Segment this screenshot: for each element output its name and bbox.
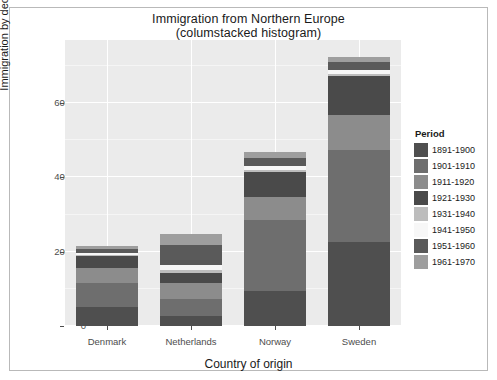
bar-segment[interactable] [328,62,390,70]
legend-swatch [414,207,428,221]
legend-label: 1921-1930 [432,193,475,203]
x-tick-mark [359,326,360,330]
bar-segment[interactable] [160,265,222,270]
plot-area [65,40,401,326]
x-tick-label-norway: Norway [230,336,320,347]
bar-netherlands[interactable] [160,234,222,326]
legend-item[interactable]: 1901-1910 [414,158,490,174]
legend-label: 1931-1940 [432,209,475,219]
bar-segment[interactable] [76,249,138,253]
bar-segment[interactable] [76,253,138,255]
legend-swatch [414,223,428,237]
y-tick-mark [60,326,64,327]
bar-segment[interactable] [244,158,306,167]
bar-segment[interactable] [244,152,306,158]
legend-label: 1961-1970 [432,257,475,267]
x-tick-label-denmark: Denmark [62,336,152,347]
bar-segment[interactable] [160,299,222,317]
bar-segment[interactable] [160,273,222,283]
legend-item[interactable]: 1931-1940 [414,206,490,222]
bar-denmark[interactable] [76,246,138,326]
bar-segment[interactable] [328,70,390,74]
y-tick-mark [60,177,64,178]
bar-segment[interactable] [160,316,222,326]
legend-item[interactable]: 1891-1900 [414,142,490,158]
bar-segment[interactable] [76,256,138,268]
bar-segment[interactable] [328,74,390,75]
bar-segment[interactable] [244,166,306,170]
bar-segment[interactable] [160,234,222,245]
legend-swatch [414,159,428,173]
legend-item[interactable]: 1911-1920 [414,174,490,190]
x-tick-mark [275,326,276,330]
legend-label: 1891-1900 [432,145,475,155]
page-title: Immigration from Northern Europe [0,12,497,26]
legend-title: Period [414,128,490,139]
legend: Period 1891-19001901-19101911-19201921-1… [414,128,490,270]
legend-label: 1911-1920 [432,177,474,187]
bar-segment[interactable] [328,242,390,326]
legend-swatch [414,255,428,269]
bar-segment[interactable] [76,283,138,307]
bar-segment[interactable] [244,291,306,326]
y-axis-title: Immigration by decade [0,0,10,120]
legend-swatch [414,143,428,157]
legend-item[interactable]: 1921-1930 [414,190,490,206]
legend-item[interactable]: 1951-1960 [414,238,490,254]
x-tick-mark [107,326,108,330]
bar-segment[interactable] [160,245,222,264]
bar-segment[interactable] [244,220,306,291]
bar-segment[interactable] [328,57,390,62]
bar-segment[interactable] [76,246,138,249]
bar-sweden[interactable] [328,57,390,326]
bar-segment[interactable] [160,283,222,299]
bar-segment[interactable] [76,268,138,283]
x-tick-label-sweden: Sweden [314,336,404,347]
bar-segment[interactable] [328,115,390,150]
y-tick-mark [60,252,64,253]
legend-swatch [414,239,428,253]
legend-swatch [414,175,428,189]
legend-items: 1891-19001901-19101911-19201921-19301931… [414,142,490,270]
bar-segment[interactable] [244,197,306,220]
chart-subtitle: (columstacked histogram) [0,26,497,40]
legend-label: 1941-1950 [432,225,475,235]
bar-segment[interactable] [244,170,306,172]
bar-segment[interactable] [76,255,138,256]
legend-swatch [414,191,428,205]
x-tick-label-netherlands: Netherlands [146,336,236,347]
bar-segment[interactable] [244,172,306,197]
x-axis-title: Country of origin [0,357,497,371]
bar-segment[interactable] [328,150,390,242]
x-tick-mark [191,326,192,330]
legend-item[interactable]: 1941-1950 [414,222,490,238]
bar-segment[interactable] [160,270,222,273]
chart-figure: Immigration from Northern Europe (colums… [0,0,497,380]
chart-title-block: Immigration from Northern Europe (colums… [0,12,497,40]
legend-item[interactable]: 1961-1970 [414,254,490,270]
legend-label: 1951-1960 [432,241,475,251]
bar-norway[interactable] [244,152,306,326]
y-tick-mark [60,103,64,104]
bar-segment[interactable] [328,76,390,115]
bar-segment[interactable] [76,307,138,326]
legend-label: 1901-1910 [432,161,475,171]
